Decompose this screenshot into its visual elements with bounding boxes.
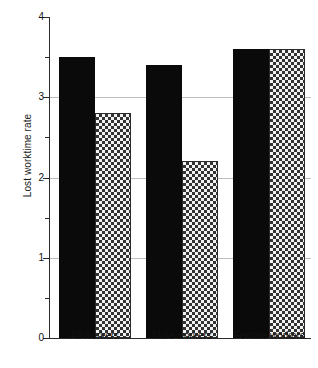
y-tick-label: 1	[38, 253, 44, 263]
y-tick-minor	[45, 57, 50, 58]
bar	[233, 49, 269, 338]
y-tick-minor	[45, 218, 50, 219]
plot-area: 01234	[49, 17, 311, 338]
bar-chart: Lost worktime rate 01234 All workersMale…	[0, 0, 318, 368]
bar	[95, 113, 131, 338]
x-axis-category-label: Female workers	[234, 330, 305, 341]
y-tick-label: 2	[38, 173, 44, 183]
bar	[146, 65, 182, 338]
y-tick-label: 0	[38, 333, 44, 343]
y-tick-minor	[45, 298, 50, 299]
y-tick-label: 4	[38, 12, 44, 22]
bar	[59, 57, 95, 338]
bar	[182, 161, 218, 338]
bar	[269, 49, 305, 338]
y-axis-title: Lost worktime rate	[22, 76, 33, 236]
x-axis-category-label: All workers	[70, 330, 119, 341]
y-tick-minor	[45, 137, 50, 138]
x-axis-category-label: Male workers	[152, 330, 211, 341]
y-tick-label: 3	[38, 92, 44, 102]
